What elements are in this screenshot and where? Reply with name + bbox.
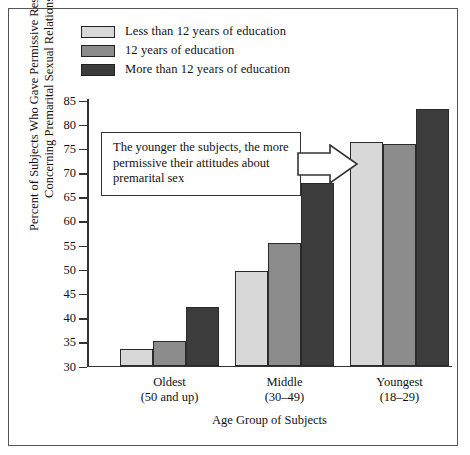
y-tick-label: 35 <box>64 335 77 350</box>
legend-swatch-dark <box>81 64 115 76</box>
bar <box>301 183 334 366</box>
y-tick-mark <box>79 101 87 103</box>
x-tick-label: Youngest(18–29) <box>376 375 423 405</box>
legend-label: More than 12 years of education <box>125 62 290 77</box>
y-tick-label: 40 <box>64 311 77 326</box>
x-tick-label-name: Oldest <box>141 375 199 390</box>
x-tick-label-name: Youngest <box>376 375 423 390</box>
bar <box>383 144 416 365</box>
legend-label: 12 years of education <box>125 43 234 58</box>
annotation-callout: The younger the subjects, the more permi… <box>101 132 301 196</box>
y-tick-mark <box>79 221 87 223</box>
x-tick-label-range: (18–29) <box>376 390 423 405</box>
y-tick-label: 60 <box>64 214 77 229</box>
y-tick-label: 75 <box>64 141 77 156</box>
y-tick-label: 85 <box>64 93 77 108</box>
x-tick-label-range: (50 and up) <box>141 390 199 405</box>
y-tick-label: 50 <box>64 262 77 277</box>
annotation-line3: premarital sex <box>113 171 291 187</box>
legend-label: Less than 12 years of education <box>125 24 286 39</box>
x-axis-title: Age Group of Subjects <box>87 413 452 428</box>
y-tick-mark <box>79 173 87 175</box>
x-tick-label-range: (30–49) <box>265 390 305 405</box>
y-tick-mark <box>79 342 87 344</box>
y-axis-title-line1: Percent of Subjects Who Gave Permissive … <box>27 0 42 231</box>
y-tick-label: 80 <box>64 117 77 132</box>
y-tick-mark <box>79 294 87 296</box>
y-axis-title: Percent of Subjects Who Gave Permissive … <box>27 0 57 231</box>
legend-swatch-medium <box>81 45 115 57</box>
x-tick-label: Oldest(50 and up) <box>141 375 199 405</box>
y-tick-label: 65 <box>64 190 77 205</box>
y-tick-label: 45 <box>64 286 77 301</box>
y-tick-label: 70 <box>64 166 77 181</box>
y-tick-mark <box>79 367 87 369</box>
legend-swatch-light <box>81 26 115 38</box>
annotation-line2: permissive their attitudes about <box>113 156 291 172</box>
legend-item: 12 years of education <box>81 42 290 59</box>
x-tick-label: Middle(30–49) <box>265 375 305 405</box>
y-tick-mark <box>79 246 87 248</box>
legend-item: More than 12 years of education <box>81 61 290 78</box>
bar <box>416 109 449 365</box>
chart-legend: Less than 12 years of education 12 years… <box>81 23 290 80</box>
bar <box>186 307 219 365</box>
y-tick-mark <box>79 125 87 127</box>
annotation-line1: The younger the subjects, the more <box>113 140 291 156</box>
legend-item: Less than 12 years of education <box>81 23 290 40</box>
y-tick-mark <box>79 197 87 199</box>
y-tick-mark <box>79 270 87 272</box>
y-axis-title-line2: Concerning Premarital Sexual Relations <box>42 0 57 231</box>
bar <box>235 271 268 365</box>
y-tick-mark <box>79 318 87 320</box>
bar-group-youngest: Youngest(18–29) <box>350 100 449 366</box>
x-tick-label-name: Middle <box>265 375 305 390</box>
y-tick-label: 55 <box>64 238 77 253</box>
bar <box>153 341 186 365</box>
y-tick-label: 30 <box>64 359 77 374</box>
y-tick-mark <box>79 149 87 151</box>
bar <box>268 243 301 365</box>
chart-frame: Less than 12 years of education 12 years… <box>8 8 458 446</box>
block-arrow-right-icon <box>297 144 359 186</box>
bar <box>120 349 153 366</box>
x-axis-line <box>87 366 452 368</box>
